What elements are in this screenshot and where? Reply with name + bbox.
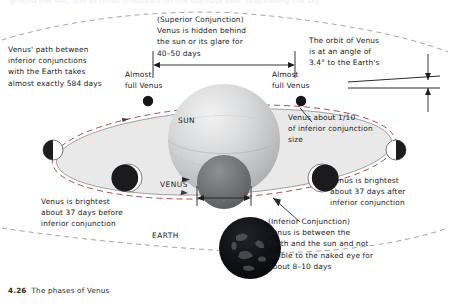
label-venus: VENUS [160,180,188,189]
venus-body [197,155,251,209]
annotation-almost-full-left: Almost full Venus [125,69,185,91]
phase-almost-full-right [296,96,306,106]
annotation-almost-full-right: Almost full Venus [272,69,332,91]
phase-half-left [43,140,63,160]
annotation-inferior-conjunction: (Inferior Conjunction) Venus is between … [268,216,448,272]
figure-caption: 4.26 The phases of Venus [8,286,110,295]
annotation-orbit-period: Venus' path between inferior conjunction… [8,44,143,89]
figure-number: 4.26 [8,286,27,295]
cut-off-body-text: ground the sun, and at times it appears … [10,0,320,5]
phase-crescent-left [111,164,142,192]
phase-almost-full-left [143,96,153,106]
annotation-orbit-angle: The orbit of Venus is at an angle of 3.4… [309,35,429,69]
annotation-brightest-before: Venus is brightest about 37 days before … [41,196,171,230]
label-sun: SUN [178,116,195,125]
venus-phases-diagram: ground the sun, and at times it appears … [0,0,450,306]
annotation-brightest-after: Venus is brightest about 37 days after i… [330,175,450,209]
annotation-superior-conjunction: (Superior Conjunction) Venus is hidden b… [157,14,307,59]
label-earth: EARTH [152,231,179,240]
annotation-venus-size-ratio: Venus about 1/10 of inferior conjunction… [288,112,443,146]
figure-caption-text: The phases of Venus [32,286,110,295]
